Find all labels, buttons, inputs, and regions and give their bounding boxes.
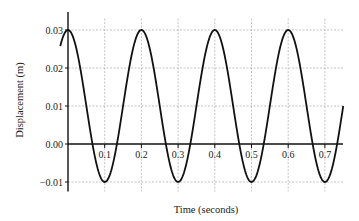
y-tick-label: −0.01: [40, 177, 63, 188]
x-tick-label: 0.5: [245, 149, 258, 160]
y-tick-label: 0.00: [46, 139, 64, 150]
y-tick-label: 0.02: [46, 63, 64, 74]
x-tick-labels: 0.10.20.30.40.50.60.7: [98, 149, 331, 160]
x-tick-label: 0.1: [98, 149, 111, 160]
x-tick-label: 0.2: [135, 149, 148, 160]
x-tick-label: 0.7: [319, 149, 332, 160]
y-tick-label: 0.03: [46, 25, 64, 36]
axes: [65, 12, 343, 192]
y-axis-title: Displacement (m): [14, 62, 26, 138]
x-tick-label: 0.4: [209, 149, 222, 160]
x-tick-label: 0.3: [172, 149, 185, 160]
grid-lines: [68, 19, 343, 192]
x-axis-title: Time (seconds): [174, 204, 239, 216]
y-tick-label: 0.01: [46, 101, 64, 112]
x-tick-label: 0.6: [282, 149, 295, 160]
y-tick-labels: −0.010.000.010.020.03: [40, 25, 63, 188]
displacement-chart: 0.10.20.30.40.50.60.7 −0.010.000.010.020…: [0, 0, 359, 221]
